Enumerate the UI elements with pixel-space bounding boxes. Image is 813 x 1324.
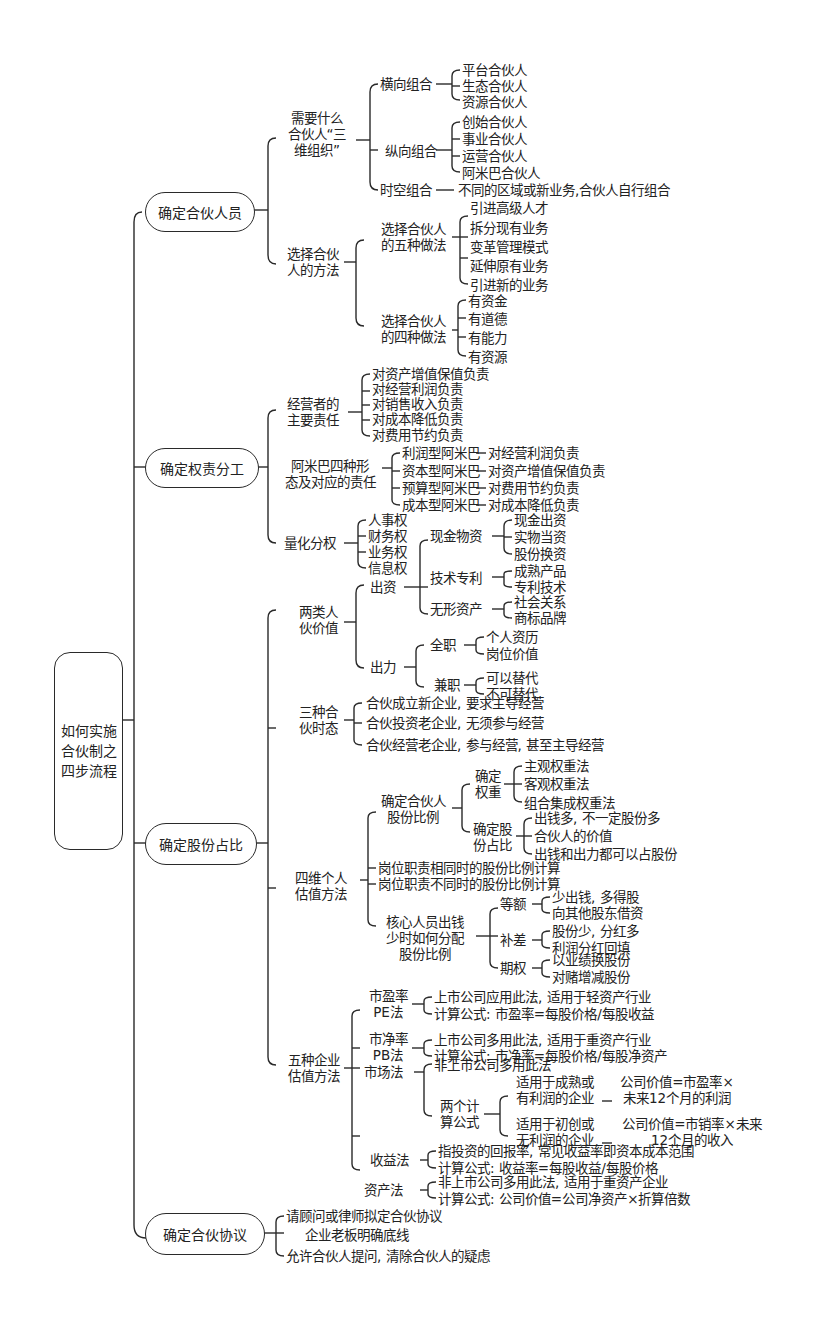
- step-label: 确定合伙人员: [158, 202, 242, 222]
- branch-pb[interactable]: 市净率 PB法: [364, 1031, 412, 1063]
- leaf: 有资金: [468, 293, 507, 309]
- branch-core-staff[interactable]: 核心人员出钱 少时如何分配 股份比例: [374, 914, 476, 962]
- branch-spacetime[interactable]: 时空组合: [380, 182, 432, 198]
- branch-quantified-rights[interactable]: 量化分权: [284, 535, 336, 551]
- leaf: 对成本降低负责: [488, 497, 579, 513]
- step-node-partners[interactable]: 确定合伙人员: [145, 192, 255, 232]
- leaf: 计算公式: 市盈率=每股价格/每股收益: [434, 1006, 654, 1022]
- branch-equal[interactable]: 等额: [500, 896, 526, 912]
- branch-four-dim-valuation[interactable]: 四维个人 估值方法: [282, 870, 360, 902]
- branch-five-enterprise-valuation[interactable]: 五种企业 估值方法: [282, 1052, 346, 1084]
- branch-fulltime[interactable]: 全职: [430, 637, 456, 653]
- leaf: 岗位职责相同时的股份比例计算: [378, 860, 560, 876]
- branch-five-ways[interactable]: 选择合伙人 的五种做法: [372, 221, 454, 253]
- leaf: 客观权重法: [524, 776, 589, 792]
- leaf: 企业老板明确底线: [305, 1227, 409, 1243]
- leaf: 对经营利润负责: [372, 381, 463, 397]
- root-label-line: 如何实施: [61, 721, 117, 741]
- leaf: 请顾问或律师拟定合伙协议: [286, 1208, 442, 1224]
- leaf: 主观权重法: [524, 758, 589, 774]
- leaf: 变革管理模式: [470, 239, 548, 255]
- branch-parttime[interactable]: 兼职: [434, 677, 460, 693]
- leaf: 业务权: [368, 544, 407, 560]
- leaf: 允许合伙人提问, 清除合伙人的疑虑: [286, 1248, 490, 1264]
- leaf: 合伙经营老企业, 参与经营, 甚至主导经营: [366, 737, 604, 753]
- branch-labor[interactable]: 出力: [370, 659, 396, 675]
- branch-compensate[interactable]: 补差: [500, 932, 526, 948]
- branch-options[interactable]: 期权: [500, 960, 526, 976]
- leaf: 资本型阿米巴: [402, 463, 480, 479]
- leaf: 个人资历: [486, 629, 538, 645]
- leaf: 对销售收入负责: [372, 396, 463, 412]
- leaf: 出钱多, 不一定股份多: [534, 810, 660, 826]
- branch-asset[interactable]: 资产法: [364, 1182, 403, 1198]
- branch-two-values[interactable]: 两类人 伙价值: [290, 604, 346, 636]
- leaf: 事业合伙人: [462, 131, 527, 147]
- branch-intangible[interactable]: 无形资产: [430, 601, 482, 617]
- branch-three-states[interactable]: 三种合 伙时态: [290, 704, 346, 736]
- step-label: 确定权责分工: [160, 458, 244, 478]
- leaf: 信息权: [368, 560, 407, 576]
- leaf: 不同的区域或新业务,合伙人自行组合: [458, 182, 670, 198]
- leaf: 平台合伙人: [462, 62, 527, 78]
- leaf: 成熟产品: [514, 563, 566, 579]
- leaf: 人事权: [368, 512, 407, 528]
- leaf: 有道德: [468, 311, 507, 327]
- branch-amoeba-forms[interactable]: 阿米巴四种形 态及对应的责任: [276, 458, 384, 490]
- step-node-responsibilities[interactable]: 确定权责分工: [145, 448, 259, 488]
- leaf: 实物当资: [514, 529, 566, 545]
- branch-share-proportion[interactable]: 确定股 份占比: [466, 821, 518, 853]
- branch-capital[interactable]: 出资: [370, 579, 396, 595]
- leaf: 合伙成立新企业, 要求主导经营: [366, 695, 544, 711]
- leaf: 对费用节约负责: [488, 480, 579, 496]
- leaf: 预算型阿米巴: [402, 480, 480, 496]
- leaf: 阿米巴合伙人: [462, 165, 540, 181]
- leaf: 上市公司多用此法, 适用于重资产行业: [434, 1032, 651, 1048]
- leaf: 计算公式: 公司价值=公司净资产×折算倍数: [438, 1191, 690, 1207]
- leaf: 非上市公司多用此法, 适用于重资产企业: [438, 1174, 668, 1190]
- leaf: 股份换资: [514, 546, 566, 562]
- leaf: 成本型阿米巴: [402, 497, 480, 513]
- leaf: 专利技术: [514, 579, 566, 595]
- formula-condition: 适用于成熟或 有利润的企业: [508, 1074, 602, 1106]
- branch-income[interactable]: 收益法: [370, 1152, 409, 1168]
- leaf: 对费用节约负责: [372, 427, 463, 443]
- branch-weights[interactable]: 确定 权重: [470, 768, 506, 800]
- step-node-agreement[interactable]: 确定合伙协议: [145, 1213, 265, 1255]
- leaf: 非上市公司多用此法: [434, 1057, 551, 1073]
- branch-four-ways[interactable]: 选择合伙人 的四种做法: [372, 313, 454, 345]
- branch-pe[interactable]: 市盈率 PE法: [364, 988, 412, 1020]
- leaf: 财务权: [368, 528, 407, 544]
- root-node[interactable]: 如何实施 合伙制之 四步流程: [54, 652, 123, 850]
- branch-two-formulas[interactable]: 两个计 算公式: [434, 1098, 484, 1130]
- leaf: 对资产增值保值负责: [488, 463, 605, 479]
- branch-three-dim-org[interactable]: 需要什么 合伙人“三 维组织”: [276, 110, 358, 158]
- branch-partner-ratio[interactable]: 确定合伙人 股份比例: [372, 793, 454, 825]
- leaf: 延伸原有业务: [470, 258, 548, 274]
- branch-selection-methods[interactable]: 选择合伙 人的方法: [278, 246, 348, 278]
- branch-market[interactable]: 市场法: [364, 1064, 403, 1080]
- step-node-equity[interactable]: 确定股份占比: [145, 823, 257, 865]
- branch-operator-duties[interactable]: 经营者的 主要责任: [278, 396, 348, 428]
- leaf: 合伙人的价值: [534, 828, 612, 844]
- leaf: 现金出资: [514, 512, 566, 528]
- leaf: 上市公司应用此法, 适用于轻资产行业: [434, 989, 651, 1005]
- leaf: 生态合伙人: [462, 78, 527, 94]
- leaf: 向其他股东借资: [552, 905, 643, 921]
- leaf: 可以替代: [486, 670, 538, 686]
- branch-vertical[interactable]: 纵向组合: [385, 143, 437, 159]
- root-label-line: 合伙制之: [61, 741, 117, 761]
- branch-tech-patent[interactable]: 技术专利: [430, 570, 482, 586]
- leaf: 岗位职责不同时的股份比例计算: [378, 876, 560, 892]
- branch-horizontal[interactable]: 横向组合: [380, 76, 432, 92]
- leaf: 引进高级人才: [470, 200, 548, 216]
- leaf: 对赌增减股份: [552, 969, 630, 985]
- leaf: 少出钱, 多得股: [552, 889, 639, 905]
- leaf: 组合集成权重法: [524, 795, 615, 811]
- branch-cash-goods[interactable]: 现金物资: [430, 528, 482, 544]
- leaf: 有资源: [468, 349, 507, 365]
- leaf: 社会关系: [514, 594, 566, 610]
- step-label: 确定股份占比: [159, 834, 243, 854]
- leaf: 对成本降低负责: [372, 411, 463, 427]
- leaf: 以业绩换股份: [552, 952, 630, 968]
